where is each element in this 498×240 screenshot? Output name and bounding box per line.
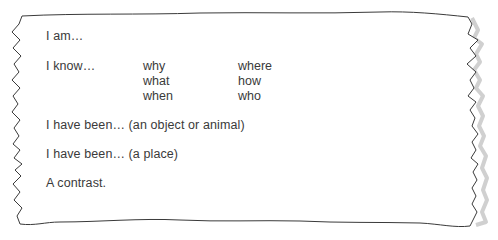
question-word: where [238,59,272,74]
question-word: when [143,89,173,104]
question-words-column-2: where how who [238,59,272,104]
question-word: why [143,59,173,74]
question-word: what [143,74,173,89]
prompt-i-know: I know… [46,59,95,74]
prompt-place: I have been… (a place) [46,147,178,162]
prompt-object-or-animal: I have been… (an object or animal) [46,118,245,133]
prompt-i-am: I am… [46,29,83,44]
question-word: who [238,89,272,104]
question-word: how [238,74,272,89]
question-words-column-1: why what when [143,59,173,104]
prompt-contrast: A contrast. [46,176,106,191]
